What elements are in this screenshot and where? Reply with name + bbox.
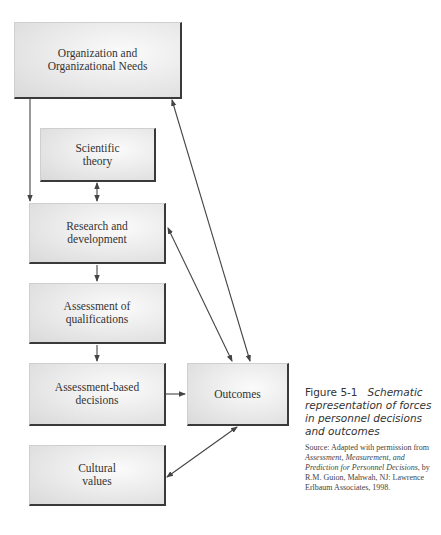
arrow-org-out <box>172 100 250 361</box>
node-assessment-qualifications: Assessment of qualifications <box>29 283 166 344</box>
node-label: Research and development <box>66 220 128 246</box>
node-label: Assessment of qualifications <box>64 300 131 326</box>
caption-source: Source: Adapted with permission from Ass… <box>305 443 440 493</box>
source-book-title: Assessment, Measurement, and Prediction … <box>305 453 418 472</box>
source-prefix: Source: Adapted with permission from <box>305 443 429 452</box>
figure-number: Figure 5-1 <box>305 386 358 398</box>
arrow-rd-out <box>168 228 232 361</box>
figure-caption: Figure 5-1 Schematic representation of f… <box>305 386 440 493</box>
node-assessment-decisions: Assessment-based decisions <box>29 363 166 426</box>
node-label: Outcomes <box>214 388 261 401</box>
node-organization: Organization and Organizational Needs <box>14 22 182 99</box>
arrow-out-cul <box>167 427 237 477</box>
node-label: Scientific theory <box>75 142 119 168</box>
node-label: Organization and Organizational Needs <box>48 47 148 73</box>
node-label: Cultural values <box>78 462 116 488</box>
node-cultural-values: Cultural values <box>29 445 166 506</box>
caption-title: Figure 5-1 Schematic representation of f… <box>305 386 440 438</box>
node-research-development: Research and development <box>29 203 166 264</box>
node-outcomes: Outcomes <box>187 363 289 426</box>
node-label: Assessment-based decisions <box>55 381 139 407</box>
node-scientific-theory: Scientific theory <box>40 128 156 182</box>
